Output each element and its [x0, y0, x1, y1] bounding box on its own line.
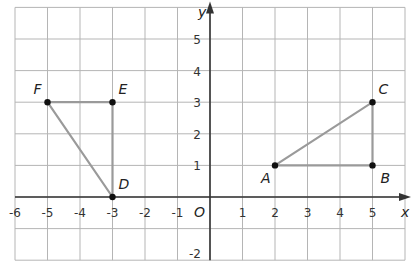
- point-label-b: B: [381, 170, 391, 186]
- point-e: [109, 99, 115, 105]
- point-d: [109, 194, 115, 200]
- point-label-a: A: [260, 170, 271, 186]
- x-tick-label: -5: [42, 206, 54, 220]
- x-axis-label: x: [400, 204, 410, 220]
- y-tick-label: 5: [193, 33, 201, 47]
- x-tick-label: 2: [271, 206, 279, 220]
- y-tick-label: 4: [193, 65, 201, 79]
- x-tick-label: 4: [336, 206, 344, 220]
- x-tick-label: 1: [239, 206, 247, 220]
- point-label-f: F: [34, 81, 43, 97]
- x-tick-label: -4: [74, 206, 86, 220]
- x-tick-label: 5: [369, 206, 377, 220]
- point-c: [369, 99, 375, 105]
- x-tick-label: 3: [304, 206, 312, 220]
- point-b: [369, 162, 375, 168]
- x-tick-label: -1: [172, 206, 184, 220]
- y-tick-label: -2: [189, 247, 201, 261]
- coordinate-grid: xyO-6-5-4-3-2-11234554321-2ABCDEF: [0, 0, 416, 273]
- y-tick-label: 2: [193, 128, 201, 142]
- point-label-d: D: [119, 176, 130, 192]
- x-tick-label: -6: [9, 206, 21, 220]
- y-tick-label: 1: [193, 159, 201, 173]
- point-label-c: C: [379, 81, 389, 97]
- origin-label: O: [194, 204, 205, 220]
- point-a: [272, 162, 278, 168]
- x-tick-label: -2: [139, 206, 151, 220]
- y-tick-label: 3: [193, 96, 201, 110]
- x-tick-label: -3: [107, 206, 119, 220]
- point-label-e: E: [119, 81, 128, 97]
- point-f: [44, 99, 50, 105]
- coordinate-plane-diagram: xyO-6-5-4-3-2-11234554321-2ABCDEF: [0, 0, 416, 273]
- y-axis-label: y: [197, 4, 207, 20]
